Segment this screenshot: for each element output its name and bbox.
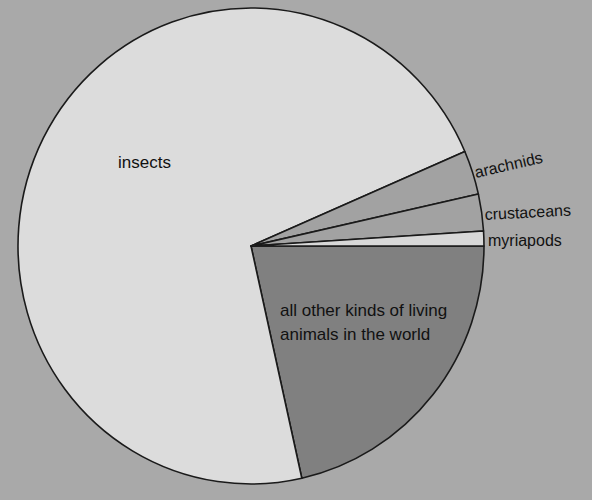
label-myriapods: myriapods [488,232,562,249]
label-crustaceans: crustaceans [484,202,571,223]
pie-chart: insects arachnids crustaceans myriapods … [0,0,592,500]
label-other-line2: animals in the world [280,325,430,344]
label-other-line1: all other kinds of living [280,301,447,320]
pie-slices [18,8,484,484]
label-insects: insects [118,153,171,172]
label-arachnids: arachnids [473,149,544,181]
